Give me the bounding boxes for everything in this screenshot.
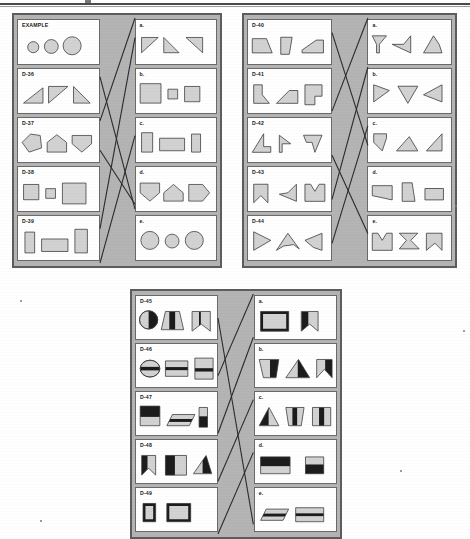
option-cell[interactable]: d. [254,439,337,484]
figure-shape [276,234,299,251]
problem-cell[interactable]: D-43 [247,166,332,212]
answer-line[interactable] [218,337,253,433]
option-cell[interactable]: a. [254,295,337,340]
option-label: c. [140,120,145,127]
figure-shape [163,38,178,53]
figure-shape [140,232,158,250]
answer-line[interactable] [332,155,368,233]
option-cell[interactable]: c. [135,117,218,163]
figure-shape [260,457,289,474]
figure-shape [28,42,39,53]
figure-group [368,29,451,63]
scan-speck [455,205,457,207]
answer-line[interactable] [100,38,135,229]
figure-shape [167,504,191,522]
option-cell[interactable]: a. [367,19,452,65]
answer-line[interactable] [332,67,368,199]
figure-shape [373,36,387,53]
test-panel: D-40D-41D-42D-43D-44a.b.c.d.e. [242,13,457,268]
figure-shape [165,235,179,249]
problem-cell[interactable]: D-37 [17,117,100,163]
figure-group [136,78,217,112]
option-cell[interactable]: e. [254,487,337,532]
problem-cell[interactable]: D-40 [247,19,332,65]
option-cell[interactable]: a. [135,19,218,65]
option-label: b. [259,346,264,353]
panel-inner: D-45D-46D-47D-48D-49a.b.c.d.e. [135,294,337,534]
option-label: d. [372,169,377,176]
figure-shape [140,407,160,427]
problem-cell[interactable]: D-46 [135,343,218,388]
problem-cell[interactable]: D-36 [17,68,100,114]
problem-cell[interactable]: D-48 [135,439,218,484]
figure-shape [141,38,158,53]
figure-group [248,78,331,112]
answer-line[interactable] [100,18,135,121]
figure-shape [295,508,323,522]
problem-label: D-42 [252,120,264,127]
option-cell[interactable]: c. [367,117,452,163]
problem-column: D-40D-41D-42D-43D-44 [247,18,332,263]
figure-group [136,225,217,259]
problem-cell[interactable]: D-47 [135,391,218,436]
option-cell[interactable]: b. [135,68,218,114]
answer-line[interactable] [332,18,368,111]
scan-speck [20,300,22,302]
option-cell[interactable]: d. [135,166,218,212]
figure-shape [305,457,323,474]
problem-cell[interactable]: EXAMPLE [17,19,100,65]
option-label: b. [140,71,145,78]
option-cell[interactable]: e. [135,215,218,261]
figure-shape [140,361,160,378]
answer-line[interactable] [332,33,368,146]
figure-shape [301,312,318,332]
figure-shape [159,139,184,151]
figure-shape [259,510,290,521]
problem-cell[interactable]: D-49 [135,487,218,532]
figure-shape [286,360,310,378]
answer-line[interactable] [218,318,253,524]
answer-line[interactable] [218,452,253,534]
figure-group [18,29,99,63]
figure-shape [276,91,297,104]
answer-line[interactable] [218,400,253,482]
option-cell[interactable]: d. [367,166,452,212]
figure-shape [22,135,41,153]
option-cell[interactable]: e. [367,215,452,261]
figure-group [18,127,99,161]
problem-cell[interactable]: D-45 [135,295,218,340]
problem-cell[interactable]: D-41 [247,68,332,114]
figure-group [368,225,451,259]
option-label: e. [259,490,264,497]
figure-shape [188,185,209,202]
figure-shape [302,41,323,54]
answer-lines-layer [332,18,368,263]
answer-line[interactable] [218,294,253,376]
figure-group [136,176,217,210]
option-cell[interactable]: c. [254,391,337,436]
figure-group [18,225,99,259]
answer-line[interactable] [100,77,135,209]
problem-cell[interactable]: D-44 [247,215,332,261]
option-column: a.b.c.d.e. [367,18,452,263]
answer-line[interactable] [100,150,135,204]
problem-label: D-49 [140,490,152,497]
figure-group [248,29,331,63]
option-cell[interactable]: b. [367,68,452,114]
figure-group [248,127,331,161]
option-cell[interactable]: b. [254,343,337,388]
option-label: b. [372,71,377,78]
problem-cell[interactable]: D-39 [17,215,100,261]
figure-shape [46,189,56,199]
panel-inner: D-40D-41D-42D-43D-44a.b.c.d.e. [247,18,452,263]
problem-label: D-40 [252,22,264,29]
figure-group [136,449,217,482]
figure-shape [305,185,325,202]
problem-cell[interactable]: D-38 [17,166,100,212]
answer-line[interactable] [332,126,368,244]
problem-cell[interactable]: D-42 [247,117,332,163]
figure-group [248,225,331,259]
figure-shape [142,456,156,476]
figure-shape [397,137,418,151]
answer-line[interactable] [100,136,135,263]
